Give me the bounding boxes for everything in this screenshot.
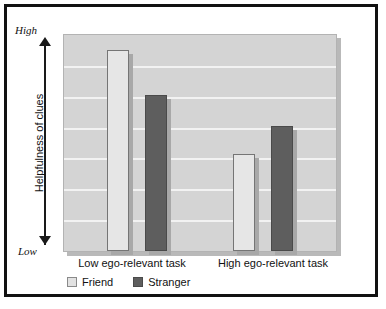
chart-frame-border: High Low Helpfulness of clues Low ego-re… bbox=[4, 4, 378, 297]
legend-swatch-friend-icon bbox=[67, 277, 77, 287]
bar-stranger-high-ego[interactable] bbox=[271, 126, 293, 251]
y-axis-low-label: Low bbox=[18, 245, 37, 257]
legend-item-friend: Friend bbox=[67, 276, 113, 288]
chart-figure: High Low Helpfulness of clues Low ego-re… bbox=[0, 0, 386, 309]
plot-area bbox=[63, 34, 337, 252]
gridline bbox=[64, 66, 336, 68]
bar-stranger-low-ego[interactable] bbox=[145, 95, 167, 251]
y-axis-arrow-down-icon bbox=[39, 236, 51, 245]
legend-label-stranger: Stranger bbox=[148, 276, 190, 288]
x-axis-label-high-ego: High ego-relevant task bbox=[205, 257, 341, 269]
bar-friend-low-ego[interactable] bbox=[107, 50, 129, 251]
legend-item-stranger: Stranger bbox=[133, 276, 190, 288]
legend-label-friend: Friend bbox=[82, 276, 113, 288]
y-axis-arrow-up-icon bbox=[39, 37, 51, 46]
gridline bbox=[64, 97, 336, 99]
y-axis-high-label: High bbox=[15, 24, 37, 36]
bar-friend-high-ego[interactable] bbox=[233, 154, 255, 251]
legend-swatch-stranger-icon bbox=[133, 277, 143, 287]
x-axis-label-low-ego: Low ego-relevant task bbox=[67, 257, 197, 269]
chart-legend: Friend Stranger bbox=[67, 276, 190, 288]
y-axis-title: Helpfulness of clues bbox=[33, 63, 45, 223]
